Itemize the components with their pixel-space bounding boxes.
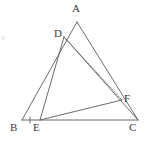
segment-DF [64, 37, 122, 100]
vertex-label-d: D [54, 28, 62, 39]
segment-AB [22, 22, 77, 120]
vertex-label-b: B [10, 122, 17, 133]
vertex-label-e: E [33, 122, 40, 133]
segment-AC [77, 22, 138, 120]
segments-layer [22, 22, 138, 120]
figure-canvas [0, 0, 149, 146]
segment-EF [40, 100, 122, 120]
vertex-label-a: A [72, 3, 80, 14]
geometry-figure: ADFBEC o [0, 0, 149, 146]
left-edge-artifact: o [1, 34, 5, 42]
vertex-label-f: F [124, 93, 130, 104]
segment-DE [40, 37, 64, 120]
vertex-label-c: C [129, 122, 136, 133]
